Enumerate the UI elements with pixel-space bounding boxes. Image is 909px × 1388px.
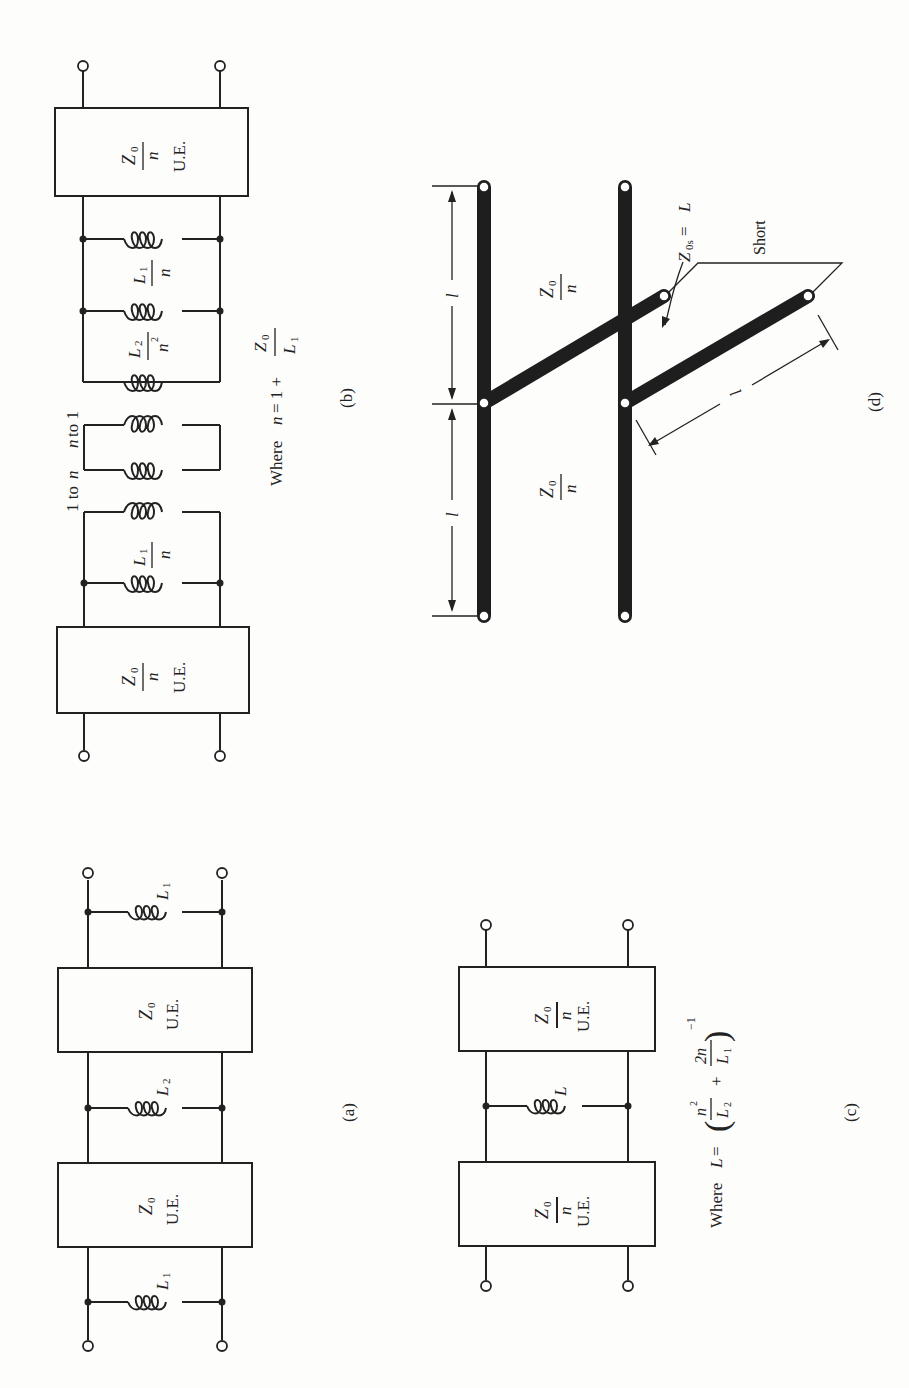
caption-a: (a) (339, 1103, 358, 1122)
inductor-label: L (153, 1087, 172, 1097)
svg-text:Z: Z (251, 342, 270, 352)
inductor-label: L (153, 1281, 172, 1291)
formula-n: Where n = 1 + Z 0 L 1 (251, 328, 300, 486)
svg-text:n: n (692, 1108, 709, 1116)
inductor-coil-icon (128, 1102, 166, 1116)
svg-text:Z: Z (136, 1009, 156, 1020)
svg-text:U.E.: U.E. (163, 999, 182, 1030)
inductor-coil-icon (124, 576, 162, 592)
svg-text:n: n (63, 471, 82, 480)
inductor-coil-icon (124, 463, 162, 479)
unit-element-box: Z 0 n U.E. (55, 108, 248, 196)
ideal-transformer (84, 416, 220, 479)
svg-text:L: L (675, 203, 694, 213)
terminal-icon (83, 1341, 93, 1351)
terminal-icon (217, 868, 227, 878)
inductor-coil-icon (527, 1100, 565, 1114)
svg-text:Z: Z (537, 287, 557, 298)
svg-text:2: 2 (160, 1079, 172, 1085)
svg-text:L: L (130, 275, 149, 285)
svg-text:n: n (63, 440, 82, 449)
svg-text:2: 2 (132, 341, 144, 347)
svg-text:n: n (556, 1207, 575, 1216)
shunt-inductor-l2: L 2 (85, 1079, 226, 1116)
svg-text:U.E.: U.E. (170, 141, 189, 172)
stub-rod (625, 296, 808, 403)
svg-text:1: 1 (137, 267, 149, 273)
svg-text:Z: Z (537, 487, 557, 498)
unit-element-box: Z 0 U.E. (58, 1163, 252, 1247)
terminal-icon (215, 61, 225, 71)
svg-text:= 1 +: = 1 + (267, 377, 286, 413)
terminal-icon (623, 1281, 633, 1291)
terminal-icon (78, 61, 88, 71)
formula-l: Where L = ( n 2 L 2 + 2n L 1 ) −1 (684, 1017, 736, 1228)
svg-text:n: n (143, 673, 162, 682)
svg-text:n: n (155, 551, 174, 560)
terminal-icon (79, 751, 89, 761)
svg-text:0: 0 (259, 334, 271, 340)
svg-text:L: L (280, 345, 299, 355)
inductor-coil-icon (128, 906, 166, 920)
svg-text:L: L (714, 1055, 731, 1065)
svg-text:Z: Z (532, 1208, 552, 1219)
stub-rod (484, 296, 664, 403)
svg-text:l: l (727, 386, 746, 400)
svg-text:Z: Z (136, 1204, 156, 1215)
shunt-inductor-l1-bottom: L 1 (85, 1273, 226, 1310)
inductor-coil-icon (124, 416, 162, 432)
unit-element-box: Z 0 n U.E. (57, 627, 249, 713)
svg-text:(: ( (698, 1121, 736, 1132)
panel-c: Z 0 n U.E. L Z 0 n U.E. Where L = ( (459, 920, 860, 1291)
shunt-inductor-l1-over-n: L 1 n (80, 232, 224, 286)
svg-text:1 to: 1 to (63, 486, 82, 512)
svg-text:l: l (443, 512, 462, 517)
unit-element-box: Z 0 n U.E. (459, 967, 655, 1051)
unit-element-box: Z 0 U.E. (58, 968, 252, 1052)
shunt-inductor-l2-over-n2: L 2 n 2 (80, 304, 224, 360)
svg-text:U.E.: U.E. (163, 1194, 182, 1225)
shunt-inductor-l1-top: L 1 (85, 883, 226, 920)
short-label: Short (751, 220, 768, 255)
shunt-inductor-l: L (483, 1087, 632, 1114)
short-wire (668, 263, 842, 293)
caption-d: (d) (865, 392, 884, 412)
svg-text:0: 0 (546, 280, 558, 286)
svg-text:0: 0 (541, 1201, 553, 1207)
svg-text:l: l (443, 293, 462, 298)
inductor-label: L (153, 891, 172, 901)
svg-text:Z: Z (675, 252, 694, 262)
svg-text:0: 0 (128, 146, 140, 152)
svg-text:0s: 0s (683, 240, 695, 250)
svg-text:0: 0 (128, 667, 140, 673)
svg-text:L: L (125, 349, 144, 359)
svg-text:L: L (714, 1109, 731, 1119)
shunt-inductor-l1-over-n-left: L 1 n (81, 542, 224, 592)
svg-text:1: 1 (137, 549, 149, 555)
svg-text:Where: Where (267, 441, 286, 486)
svg-text:Where: Where (707, 1183, 726, 1228)
svg-text:2n: 2n (692, 1048, 709, 1064)
panel-a: L 1 Z 0 U.E. L 2 Z 0 U.E. (58, 868, 358, 1351)
svg-text:2: 2 (149, 337, 160, 342)
terminal-icon (623, 920, 633, 930)
inductor-label: L (551, 1087, 570, 1097)
svg-text:n: n (155, 269, 174, 278)
svg-text:n: n (556, 1012, 575, 1021)
svg-text:n: n (561, 485, 580, 494)
svg-text:1: 1 (722, 1048, 733, 1053)
svg-text:−1: −1 (684, 1017, 698, 1030)
unit-element-box: Z 0 n U.E. (459, 1162, 655, 1246)
svg-text:U.E.: U.E. (574, 1196, 593, 1227)
svg-text:n: n (561, 285, 580, 294)
figure-page: L 1 Z 0 U.E. L 2 Z 0 U.E. (0, 0, 909, 1388)
svg-text:n: n (153, 344, 172, 353)
panel-d: l l Short Z 0s = L Z 0 n Z 0 (432, 182, 884, 621)
inductor-coil-icon (124, 232, 162, 248)
svg-text:to 1: to 1 (63, 411, 82, 437)
inductor-coil-icon (124, 304, 162, 320)
svg-text:): ) (698, 1031, 736, 1042)
svg-text:n: n (143, 152, 162, 161)
svg-text:Z: Z (119, 154, 139, 165)
inductor-coil-icon (124, 375, 162, 391)
